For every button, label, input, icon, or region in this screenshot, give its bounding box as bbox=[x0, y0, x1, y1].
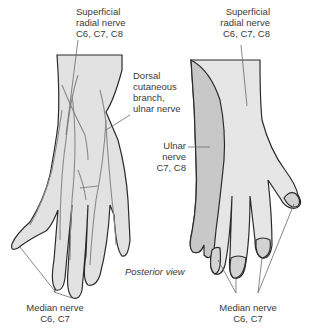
label-line: C7, C8 bbox=[150, 162, 186, 173]
label-right-median-nerve: Median nerve C6, C7 bbox=[212, 302, 284, 324]
left-hand bbox=[12, 40, 130, 298]
right-hand bbox=[188, 45, 301, 293]
label-left-median-nerve: Median nerve C6, C7 bbox=[20, 302, 90, 324]
label-line: Median nerve bbox=[20, 302, 90, 313]
label-line: C6, C7 bbox=[212, 313, 284, 324]
label-line: ulnar nerve bbox=[133, 103, 181, 114]
label-line: branch, bbox=[133, 92, 181, 103]
label-line: radial nerve bbox=[214, 17, 270, 28]
label-line: C6, C7 bbox=[20, 313, 90, 324]
label-line: cutaneous bbox=[133, 81, 181, 92]
label-line: nerve bbox=[150, 151, 186, 162]
label-dorsal-cutaneous-branch-ulnar-nerve: Dorsal cutaneous branch, ulnar nerve bbox=[133, 70, 181, 114]
label-line: Superficial bbox=[76, 6, 126, 17]
label-line: Superficial bbox=[214, 6, 270, 17]
label-line: Median nerve bbox=[212, 302, 284, 313]
label-ulnar-nerve: Ulnar nerve C7, C8 bbox=[150, 140, 186, 173]
label-line: C6, C7, C8 bbox=[214, 28, 270, 39]
label-left-superficial-radial-nerve: Superficial radial nerve C6, C7, C8 bbox=[76, 6, 126, 39]
label-line: radial nerve bbox=[76, 17, 126, 28]
label-right-superficial-radial-nerve: Superficial radial nerve C6, C7, C8 bbox=[214, 6, 270, 39]
label-line: Ulnar bbox=[150, 140, 186, 151]
label-line: C6, C7, C8 bbox=[76, 28, 126, 39]
left-hand-outline bbox=[12, 55, 130, 298]
label-line: Dorsal bbox=[133, 70, 181, 81]
view-label: Posterior view bbox=[125, 266, 185, 277]
